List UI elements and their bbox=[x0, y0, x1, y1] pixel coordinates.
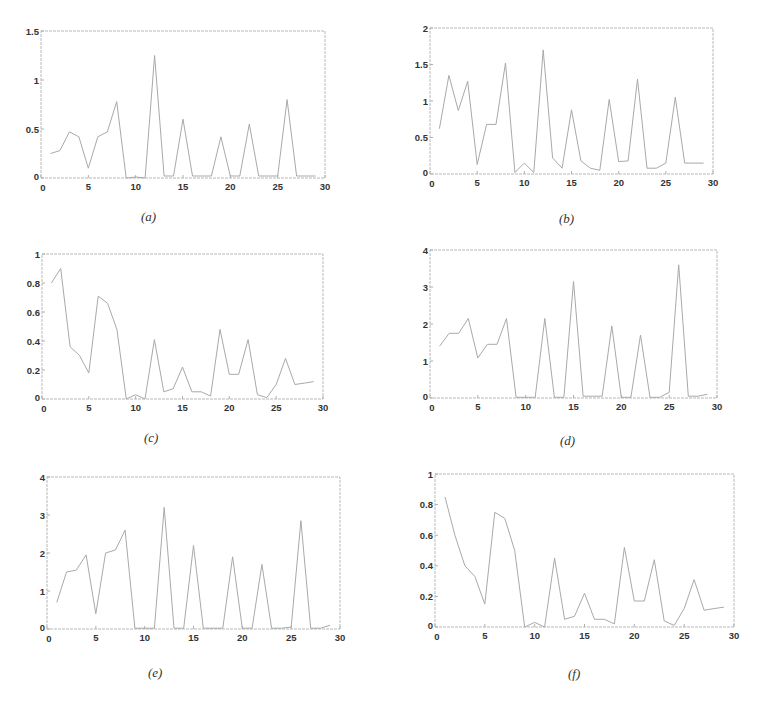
y-tick-label: 1 bbox=[34, 75, 40, 86]
y-tick-label: 0.6 bbox=[27, 307, 40, 318]
data-series-line bbox=[440, 265, 708, 398]
plot-area: 05101520253001234 bbox=[47, 477, 340, 629]
x-tick-label: 10 bbox=[519, 177, 530, 188]
x-tick-label: 0 bbox=[41, 403, 46, 414]
y-tick-label: 2 bbox=[40, 548, 45, 559]
y-tick-label: 0.8 bbox=[420, 499, 433, 510]
plot-area: 05101520253000.20.40.60.81 bbox=[435, 474, 734, 627]
subplot-caption-a: (a) bbox=[141, 209, 156, 225]
subplot-caption-c: (c) bbox=[144, 430, 158, 446]
plot-area: 05101520253001234 bbox=[430, 250, 717, 398]
y-tick-label: 0.4 bbox=[420, 560, 434, 571]
subplot-caption-e: (e) bbox=[148, 665, 162, 681]
x-tick-label: 20 bbox=[225, 181, 236, 192]
y-tick-label: 1 bbox=[428, 469, 434, 480]
x-tick-label: 15 bbox=[568, 401, 579, 412]
x-tick-label: 25 bbox=[664, 401, 675, 412]
x-tick-label: 20 bbox=[616, 401, 627, 412]
x-tick-label: 25 bbox=[272, 181, 283, 192]
x-tick-label: 10 bbox=[520, 401, 531, 412]
x-tick-label: 15 bbox=[566, 177, 577, 188]
data-series-line bbox=[445, 497, 724, 627]
x-tick-label: 15 bbox=[177, 402, 188, 413]
y-tick-label: 0 bbox=[35, 392, 40, 403]
x-tick-label: 10 bbox=[139, 632, 150, 643]
subplot-f: 05101520253000.20.40.60.81 bbox=[435, 474, 734, 627]
subplot-caption-d: (d) bbox=[560, 433, 575, 449]
y-tick-label: 0.2 bbox=[27, 365, 40, 376]
data-series-line bbox=[439, 50, 703, 173]
subplot-b: 05101520253000.511.52 bbox=[430, 28, 713, 174]
plot-area: 05101520253000.20.40.60.81 bbox=[42, 254, 323, 399]
x-tick-label: 0 bbox=[46, 633, 51, 644]
x-tick-label: 15 bbox=[178, 181, 189, 192]
x-tick-label: 15 bbox=[188, 632, 199, 643]
data-series-line bbox=[51, 56, 316, 179]
x-tick-label: 10 bbox=[130, 181, 141, 192]
y-tick-label: 1 bbox=[35, 249, 41, 260]
axes-frame bbox=[47, 477, 340, 629]
y-tick-label: 1.5 bbox=[26, 26, 40, 37]
y-tick-label: 0.2 bbox=[420, 591, 433, 602]
x-tick-label: 5 bbox=[482, 630, 488, 641]
x-tick-label: 5 bbox=[475, 177, 481, 188]
y-tick-label: 0 bbox=[34, 171, 39, 182]
plot-area: 05101520253000.511.52 bbox=[430, 28, 713, 174]
x-tick-label: 30 bbox=[712, 401, 723, 412]
subplot-d: 05101520253001234 bbox=[430, 250, 717, 398]
y-tick-label: 0 bbox=[428, 620, 433, 631]
x-tick-label: 25 bbox=[271, 402, 282, 413]
y-tick-label: 1.5 bbox=[415, 59, 429, 70]
y-tick-label: 0.5 bbox=[26, 124, 40, 135]
y-tick-label: 1 bbox=[423, 356, 429, 367]
y-tick-label: 4 bbox=[40, 472, 46, 483]
axes-frame bbox=[435, 474, 734, 627]
plot-area: 05101520253000.511.5 bbox=[41, 31, 325, 178]
y-tick-label: 2 bbox=[423, 23, 428, 34]
x-tick-label: 30 bbox=[320, 181, 331, 192]
y-tick-label: 3 bbox=[423, 282, 428, 293]
x-tick-label: 30 bbox=[335, 632, 346, 643]
x-tick-label: 30 bbox=[729, 630, 740, 641]
subplot-caption-b: (b) bbox=[559, 211, 574, 227]
x-tick-label: 0 bbox=[40, 182, 45, 193]
y-tick-label: 0 bbox=[423, 167, 428, 178]
x-tick-label: 10 bbox=[130, 402, 141, 413]
subplot-c: 05101520253000.20.40.60.81 bbox=[42, 254, 323, 399]
x-tick-label: 25 bbox=[661, 177, 672, 188]
subplot-e: 05101520253001234 bbox=[47, 477, 340, 629]
x-tick-label: 20 bbox=[237, 632, 248, 643]
y-tick-label: 2 bbox=[423, 319, 428, 330]
x-tick-label: 20 bbox=[629, 630, 640, 641]
x-tick-label: 30 bbox=[318, 402, 329, 413]
x-tick-label: 0 bbox=[434, 631, 439, 642]
x-tick-label: 10 bbox=[529, 630, 540, 641]
y-tick-label: 1 bbox=[423, 96, 429, 107]
x-tick-label: 20 bbox=[613, 177, 624, 188]
y-tick-label: 3 bbox=[40, 510, 45, 521]
x-tick-label: 0 bbox=[429, 178, 434, 189]
x-tick-label: 5 bbox=[86, 402, 92, 413]
y-tick-label: 0.6 bbox=[420, 530, 433, 541]
subplot-a: 05101520253000.511.5 bbox=[41, 31, 325, 178]
x-tick-label: 25 bbox=[679, 630, 690, 641]
x-tick-label: 5 bbox=[475, 401, 481, 412]
axes-frame bbox=[41, 31, 325, 178]
y-tick-label: 1 bbox=[40, 586, 46, 597]
x-tick-label: 15 bbox=[579, 630, 590, 641]
subplot-caption-f: (f) bbox=[568, 666, 580, 682]
x-tick-label: 0 bbox=[429, 402, 434, 413]
y-tick-label: 0 bbox=[40, 622, 45, 633]
x-tick-label: 20 bbox=[224, 402, 235, 413]
x-tick-label: 30 bbox=[708, 177, 719, 188]
y-tick-label: 0 bbox=[423, 391, 428, 402]
y-tick-label: 0.4 bbox=[27, 336, 41, 347]
y-tick-label: 0.5 bbox=[415, 132, 429, 143]
axes-frame bbox=[42, 254, 323, 399]
x-tick-label: 25 bbox=[286, 632, 297, 643]
axes-frame bbox=[430, 28, 713, 174]
y-tick-label: 4 bbox=[423, 245, 429, 256]
data-series-line bbox=[51, 269, 313, 400]
y-tick-label: 0.8 bbox=[27, 278, 40, 289]
data-series-line bbox=[57, 507, 330, 628]
